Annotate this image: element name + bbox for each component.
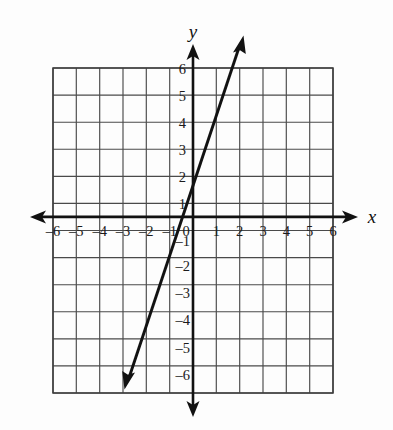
y-tick-label--5: –5 xyxy=(175,340,191,356)
y-tick-label-6: 6 xyxy=(179,61,186,77)
x-tick-label-1: 1 xyxy=(213,223,220,239)
y-tick-label--1: –1 xyxy=(175,233,191,249)
x-axis-name: x xyxy=(367,206,377,227)
y-axis-name: y xyxy=(187,21,198,42)
x-tick-label-4: 4 xyxy=(283,223,291,239)
axis-names: y x xyxy=(187,21,377,227)
y-axis-tick-labels: 6 5 4 3 2 1 –1 –2 –3 –4 –5 –6 xyxy=(175,61,191,383)
x-tick-label-3: 3 xyxy=(259,223,266,239)
y-tick-label--4: –4 xyxy=(175,312,191,328)
line-arrow-upper xyxy=(233,36,246,55)
x-tick-label-6: 6 xyxy=(329,223,336,239)
line-arrow-lower xyxy=(122,371,135,390)
x-tick-label--4: –4 xyxy=(91,223,107,239)
y-tick-label--6: –6 xyxy=(175,367,191,383)
y-tick-label--3: –3 xyxy=(175,285,191,301)
x-tick-label-5: 5 xyxy=(306,223,313,239)
y-tick-label-1: 1 xyxy=(179,196,186,212)
x-tick-label--6: –6 xyxy=(45,223,61,239)
y-tick-label--2: –2 xyxy=(175,258,191,274)
x-tick-label--5: –5 xyxy=(68,223,84,239)
y-tick-label-5: 5 xyxy=(179,88,186,104)
x-tick-label--3: –3 xyxy=(115,223,131,239)
graph-canvas: –6 –5 –4 –3 –2 –1 0 1 2 3 4 5 6 6 5 4 3 … xyxy=(0,0,393,430)
coordinate-plane-figure: –6 –5 –4 –3 –2 –1 0 1 2 3 4 5 6 6 5 4 3 … xyxy=(0,0,393,430)
y-tick-label-2: 2 xyxy=(179,169,186,185)
x-tick-label-2: 2 xyxy=(236,223,243,239)
x-tick-label--2: –2 xyxy=(138,223,154,239)
y-tick-label-3: 3 xyxy=(179,142,186,158)
y-tick-label-4: 4 xyxy=(179,115,187,131)
